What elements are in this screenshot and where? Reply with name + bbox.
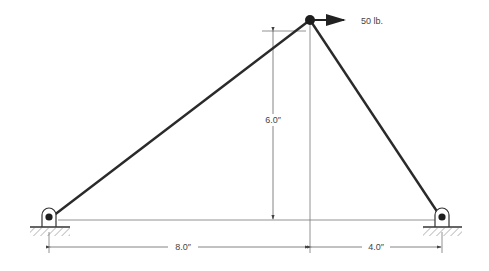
truss-diagram: 6.0″ 8.0″ 4.0″ 50 lb. <box>0 0 489 271</box>
right-pin-support <box>423 208 462 236</box>
left-span-label: 8.0″ <box>175 242 192 252</box>
apex-joint <box>305 15 315 25</box>
force-label: 50 lb. <box>361 16 383 26</box>
height-dimension: 6.0″ <box>265 31 282 219</box>
span-dimension: 8.0″ 4.0″ <box>50 242 441 252</box>
reference-lines <box>49 20 442 253</box>
height-label: 6.0″ <box>265 115 282 125</box>
truss-members <box>49 20 442 219</box>
left-pin-support <box>30 208 70 236</box>
right-span-label: 4.0″ <box>368 242 385 252</box>
right-member <box>310 20 442 219</box>
